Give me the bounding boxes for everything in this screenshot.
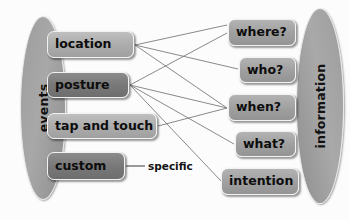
annotation-specific: specific xyxy=(148,160,193,172)
node-label-posture: posture xyxy=(55,79,110,92)
node-custom[interactable]: custom xyxy=(47,152,125,180)
node-label-who: who? xyxy=(247,64,283,77)
node-who[interactable]: who? xyxy=(239,57,296,83)
node-posture[interactable]: posture xyxy=(47,72,129,98)
node-tap-and-touch[interactable]: tap and touch xyxy=(47,113,157,139)
edge-location-who xyxy=(135,45,238,69)
edge-location-when xyxy=(135,45,227,108)
edge-posture-when xyxy=(130,85,227,108)
node-what[interactable]: what? xyxy=(235,131,296,157)
node-label-tap-and-touch: tap and touch xyxy=(55,120,153,133)
node-when[interactable]: when? xyxy=(228,94,296,121)
diagram-canvas: events information location posture tap … xyxy=(0,0,350,220)
node-location[interactable]: location xyxy=(47,31,134,58)
node-intention[interactable]: intention xyxy=(221,168,299,195)
edge-location-where xyxy=(135,25,227,45)
node-label-intention: intention xyxy=(229,175,293,188)
node-label-when: when? xyxy=(236,101,281,114)
node-label-what: what? xyxy=(243,138,285,151)
node-label-custom: custom xyxy=(55,160,106,173)
node-label-where: where? xyxy=(236,26,287,39)
node-label-location: location xyxy=(55,38,111,51)
edge-tapandtouch-when xyxy=(158,108,227,126)
node-where[interactable]: where? xyxy=(228,19,296,46)
edge-posture-where xyxy=(130,33,227,85)
